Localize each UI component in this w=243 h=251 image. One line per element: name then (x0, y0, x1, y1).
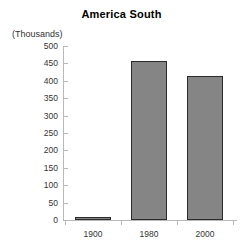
y-tick-mark (63, 63, 68, 64)
y-tick-label: 150 (18, 164, 58, 173)
x-category-label: 2000 (177, 230, 233, 239)
y-tick-label: 50 (18, 199, 58, 208)
y-tick-mark (63, 150, 68, 151)
bar (75, 217, 111, 220)
bar-chart: America South (Thousands) 05010015020025… (0, 0, 243, 251)
y-tick-label: 100 (18, 181, 58, 190)
y-tick-label: 450 (18, 59, 58, 68)
x-tick-mark (121, 220, 122, 225)
y-tick-label: 350 (18, 94, 58, 103)
x-axis-line (63, 220, 237, 221)
bar (131, 61, 167, 220)
y-tick-mark (63, 46, 68, 47)
y-tick-mark (63, 98, 68, 99)
x-tick-mark (233, 220, 234, 225)
y-tick-label: 0 (18, 216, 58, 225)
y-tick-label: 300 (18, 112, 58, 121)
y-tick-mark (63, 81, 68, 82)
y-tick-mark (63, 168, 68, 169)
x-category-label: 1980 (121, 230, 177, 239)
y-tick-label: 400 (18, 77, 58, 86)
y-tick-mark (63, 203, 68, 204)
y-tick-label: 250 (18, 129, 58, 138)
y-tick-label: 200 (18, 146, 58, 155)
bar (187, 76, 223, 220)
y-tick-label: 500 (18, 42, 58, 51)
chart-title: America South (0, 8, 243, 20)
x-tick-mark (177, 220, 178, 225)
x-tick-mark (65, 220, 66, 225)
y-tick-mark (63, 185, 68, 186)
y-axis-units-caption: (Thousands) (12, 29, 63, 39)
x-category-label: 1900 (65, 230, 121, 239)
y-tick-mark (63, 133, 68, 134)
y-tick-mark (63, 116, 68, 117)
